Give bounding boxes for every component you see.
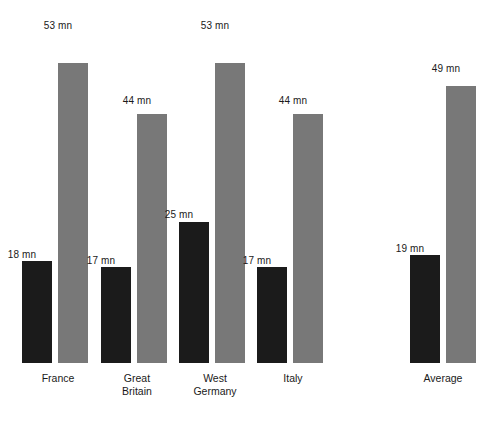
bar-value-label: 17 mn: [71, 255, 131, 266]
bar-chart: 18 mn53 mnFrance17 mn44 mnGreat Britain2…: [0, 0, 503, 421]
bar-value-label: 53 mn: [185, 20, 245, 31]
bar-light-4: [446, 86, 476, 363]
bar-light-0: [58, 63, 88, 363]
bar-value-label: 18 mn: [0, 249, 52, 260]
category-label-3: Italy: [238, 372, 348, 385]
bar-dark-3: [257, 267, 287, 363]
bar-value-label: 19 mn: [380, 243, 440, 254]
bar-value-label: 49 mn: [416, 63, 476, 74]
plot-area: 18 mn53 mnFrance17 mn44 mnGreat Britain2…: [0, 0, 503, 421]
bar-light-2: [215, 63, 245, 363]
bar-dark-2: [179, 222, 209, 364]
bar-dark-1: [101, 267, 131, 363]
bar-value-label: 17 mn: [227, 255, 287, 266]
bar-value-label: 25 mn: [149, 209, 209, 220]
bar-dark-4: [410, 255, 440, 363]
bar-value-label: 44 mn: [107, 95, 167, 106]
bar-light-3: [293, 114, 323, 363]
bar-light-1: [137, 114, 167, 363]
bar-value-label: 53 mn: [28, 20, 88, 31]
bar-dark-0: [22, 261, 52, 363]
bar-value-label: 44 mn: [263, 95, 323, 106]
category-label-4: Average: [388, 372, 498, 385]
